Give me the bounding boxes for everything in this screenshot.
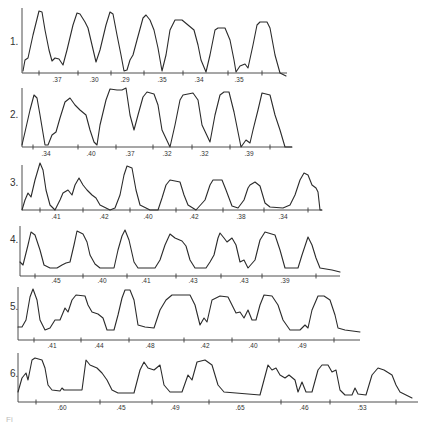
row-label: 1. bbox=[10, 36, 18, 47]
interval-value: .40 bbox=[97, 277, 106, 284]
waveform-trace bbox=[22, 163, 322, 210]
interval-value: .43 bbox=[239, 277, 248, 284]
interval-value: .42 bbox=[99, 213, 108, 220]
interval-value: .34 bbox=[278, 213, 287, 220]
interval-value: .44 bbox=[94, 342, 103, 349]
interval-value: .42 bbox=[189, 213, 198, 220]
trace-row-6: 6..60.45.49.65.46.53 bbox=[10, 353, 418, 411]
waveform-trace bbox=[23, 11, 286, 76]
interval-value: .35 bbox=[157, 76, 166, 83]
trace-row-4: 4..45.40.41.43.43.39 bbox=[10, 226, 340, 284]
interval-value: .43 bbox=[188, 277, 197, 284]
interval-value: .35 bbox=[234, 76, 243, 83]
interval-value: .32 bbox=[162, 150, 171, 157]
waveform-trace bbox=[22, 88, 292, 147]
row-label: 5. bbox=[10, 301, 18, 312]
row-label: 4. bbox=[10, 234, 18, 245]
trace-row-3: 3..41.42.40.42.38.34 bbox=[10, 163, 322, 220]
interval-value: .34 bbox=[41, 150, 50, 157]
interval-value: .29 bbox=[120, 76, 129, 83]
interval-value: .41 bbox=[51, 213, 60, 220]
interval-value: .48 bbox=[145, 342, 154, 349]
waveform-trace bbox=[20, 230, 340, 272]
axis-line bbox=[22, 165, 322, 210]
interval-value: .39 bbox=[280, 277, 289, 284]
interval-value: .49 bbox=[170, 404, 179, 411]
trace-row-5: 5..41.44.48.42.40.49 bbox=[10, 287, 360, 349]
waveform-trace bbox=[18, 289, 360, 332]
waveform-figure: 1..37.30.29.35.34.352..34.40.37.32.32.39… bbox=[0, 0, 430, 425]
row-label: 2. bbox=[10, 109, 18, 120]
interval-value: .46 bbox=[299, 404, 308, 411]
interval-value: .45 bbox=[116, 404, 125, 411]
axis-line bbox=[18, 353, 418, 402]
interval-value: .45 bbox=[51, 277, 60, 284]
row-label: 3. bbox=[10, 177, 18, 188]
interval-value: .41 bbox=[47, 342, 56, 349]
interval-value: .30 bbox=[89, 76, 98, 83]
interval-value: .60 bbox=[57, 404, 66, 411]
trace-row-1: 1..37.30.29.35.34.35 bbox=[10, 8, 287, 83]
caption-fragment: Fi bbox=[6, 415, 13, 424]
interval-value: .65 bbox=[235, 404, 244, 411]
interval-value: .32 bbox=[199, 150, 208, 157]
interval-value: .38 bbox=[236, 213, 245, 220]
interval-value: .39 bbox=[244, 150, 253, 157]
interval-value: .42 bbox=[200, 342, 209, 349]
interval-value: .37 bbox=[125, 150, 134, 157]
interval-value: .37 bbox=[52, 76, 61, 83]
interval-value: .53 bbox=[357, 404, 366, 411]
interval-value: .49 bbox=[297, 342, 306, 349]
interval-value: .40 bbox=[143, 213, 152, 220]
row-label: 6. bbox=[10, 368, 18, 379]
trace-row-2: 2..34.40.37.32.32.39 bbox=[10, 88, 292, 157]
waveform-trace bbox=[18, 358, 412, 398]
interval-value: .40 bbox=[248, 342, 257, 349]
interval-value: .40 bbox=[86, 150, 95, 157]
interval-value: .34 bbox=[194, 76, 203, 83]
interval-value: .41 bbox=[141, 277, 150, 284]
